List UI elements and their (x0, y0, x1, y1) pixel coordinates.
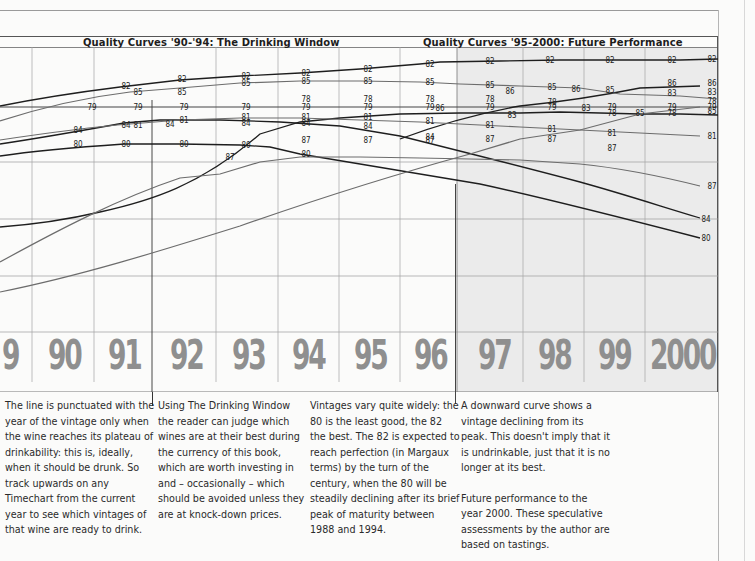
year-label: 2000 (650, 331, 715, 379)
svg-text:87: 87 (607, 144, 616, 153)
svg-text:87: 87 (425, 136, 434, 145)
caption-downward-curve: A downward curve shows a vintage declini… (461, 398, 611, 561)
svg-text:83: 83 (667, 89, 676, 98)
year-label: 95 (354, 331, 387, 379)
year-label: 98 (538, 331, 571, 379)
caption-punctuated-line: The line is punctuated with the year of … (5, 398, 155, 553)
year-label: 92 (170, 331, 203, 379)
svg-text:79: 79 (241, 103, 251, 112)
svg-text:82: 82 (177, 75, 186, 84)
year-label: 97 (478, 331, 511, 379)
svg-text:84: 84 (73, 126, 83, 135)
chart-title-future-performance: Quality Curves '95-2000: Future Performa… (423, 37, 683, 48)
svg-text:85: 85 (177, 88, 186, 97)
svg-text:85: 85 (133, 88, 142, 97)
svg-text:82: 82 (425, 60, 434, 69)
column-divider (455, 184, 456, 404)
svg-text:81: 81 (363, 113, 372, 122)
svg-text:78: 78 (363, 95, 373, 104)
svg-text:84: 84 (363, 122, 373, 131)
svg-text:82: 82 (363, 65, 372, 74)
svg-text:84: 84 (121, 121, 131, 130)
svg-text:85: 85 (301, 77, 310, 86)
svg-text:81: 81 (607, 129, 616, 138)
svg-text:79: 79 (425, 103, 435, 112)
year-label: 99 (598, 331, 631, 379)
svg-text:78: 78 (425, 95, 435, 104)
svg-text:78: 78 (707, 97, 717, 106)
svg-text:81: 81 (133, 121, 142, 130)
svg-text:83: 83 (507, 111, 516, 120)
page-right-rule (718, 10, 719, 561)
svg-text:80: 80 (701, 234, 711, 243)
caption-vintages-vary: Vintages vary quite widely: the 80 is th… (310, 398, 460, 553)
svg-text:80: 80 (241, 141, 251, 150)
svg-text:84: 84 (701, 215, 711, 224)
svg-text:83: 83 (707, 88, 716, 97)
quality-curves-chart: 79 82 82 82 82 82 82 82 82 82 82 82 85 8… (0, 36, 718, 392)
svg-text:81: 81 (425, 117, 434, 126)
svg-text:82: 82 (605, 56, 614, 65)
year-label: 9 (2, 331, 18, 379)
svg-text:79: 79 (363, 103, 373, 112)
svg-text:85: 85 (425, 78, 434, 87)
svg-text:85: 85 (635, 109, 644, 118)
page-edge-rule (744, 0, 745, 561)
svg-text:83: 83 (581, 104, 590, 113)
svg-text:79: 79 (87, 103, 97, 112)
svg-text:78: 78 (301, 95, 311, 104)
caption-drinking-window: Using The Drinking Window the reader can… (158, 398, 308, 537)
svg-text:86: 86 (667, 79, 677, 88)
svg-text:87: 87 (707, 182, 716, 191)
svg-text:80: 80 (179, 140, 189, 149)
svg-text:85: 85 (241, 79, 250, 88)
svg-text:79: 79 (133, 103, 143, 112)
svg-text:80: 80 (301, 150, 311, 159)
svg-text:87: 87 (301, 136, 310, 145)
svg-text:85: 85 (707, 107, 716, 116)
svg-text:86: 86 (505, 87, 515, 96)
svg-text:85: 85 (485, 81, 494, 90)
svg-text:85: 85 (363, 77, 372, 86)
svg-text:81: 81 (707, 132, 716, 141)
chart-title-drinking-window: Quality Curves '90-'94: The Drinking Win… (83, 37, 340, 48)
svg-text:82: 82 (667, 56, 676, 65)
svg-text:80: 80 (121, 140, 131, 149)
svg-text:87: 87 (225, 153, 234, 162)
svg-text:82: 82 (121, 82, 130, 91)
svg-text:86: 86 (435, 104, 445, 113)
svg-text:80: 80 (73, 140, 83, 149)
svg-text:85: 85 (605, 86, 614, 95)
svg-text:78: 78 (667, 109, 677, 118)
svg-text:78: 78 (607, 109, 617, 118)
svg-text:81: 81 (485, 121, 494, 130)
caption-paragraph: The line is punctuated with the year of … (5, 398, 155, 538)
svg-text:84: 84 (165, 120, 175, 129)
page-top-rule (0, 10, 718, 11)
svg-text:78: 78 (485, 95, 495, 104)
svg-text:82: 82 (707, 55, 716, 64)
svg-text:84: 84 (241, 119, 251, 128)
svg-text:78: 78 (547, 98, 557, 107)
svg-text:81: 81 (179, 116, 188, 125)
year-label: 94 (292, 331, 325, 379)
svg-text:87: 87 (485, 135, 494, 144)
year-label: 93 (232, 331, 265, 379)
svg-text:85: 85 (547, 83, 556, 92)
svg-text:79: 79 (301, 103, 311, 112)
svg-text:87: 87 (547, 135, 556, 144)
year-label: 91 (108, 331, 141, 379)
svg-text:84: 84 (301, 119, 311, 128)
year-label: 90 (48, 331, 81, 379)
svg-text:86: 86 (571, 85, 581, 94)
caption-paragraph: Future performance to the year 2000. The… (461, 491, 611, 553)
svg-text:79: 79 (179, 103, 189, 112)
svg-text:79: 79 (485, 103, 495, 112)
svg-text:86: 86 (707, 79, 717, 88)
svg-text:82: 82 (485, 57, 494, 66)
year-label: 96 (414, 331, 447, 379)
caption-paragraph: A downward curve shows a vintage declini… (461, 398, 611, 476)
svg-text:87: 87 (363, 136, 372, 145)
svg-text:81: 81 (547, 125, 556, 134)
caption-paragraph: Using The Drinking Window the reader can… (158, 398, 308, 522)
